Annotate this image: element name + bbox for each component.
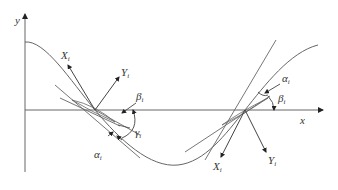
right-point-group: αi βi Xi Yi xyxy=(185,40,290,174)
left-lens-shape xyxy=(72,100,115,122)
left-gamma-label: γi xyxy=(135,126,141,140)
left-y-frame-arrow xyxy=(95,77,119,110)
right-y-frame-arrow xyxy=(245,110,266,152)
right-beta-arc xyxy=(268,96,274,110)
left-tangent-line-3 xyxy=(95,110,140,135)
left-gamma-arc xyxy=(122,110,135,138)
right-y-frame-label: Yi xyxy=(268,154,276,168)
right-alpha-label: αi xyxy=(282,72,290,86)
right-beta-label: βi xyxy=(277,92,285,106)
left-x-frame-label: Xi xyxy=(60,49,70,63)
right-x-frame-label: Xi xyxy=(212,160,222,174)
diagram-canvas: Xi Yi βi γi αi αi βi Xi Yi y x xyxy=(0,0,338,190)
left-point-group: Xi Yi βi γi αi xyxy=(55,49,143,162)
y-axis-label: y xyxy=(14,14,20,26)
left-alpha-label: αi xyxy=(94,148,102,162)
x-axis-label: x xyxy=(299,114,305,126)
left-y-frame-label: Yi xyxy=(121,66,129,80)
right-x-frame-arrow xyxy=(221,110,245,157)
left-beta-label: βi xyxy=(135,90,143,104)
left-gamma-leader xyxy=(118,125,130,128)
